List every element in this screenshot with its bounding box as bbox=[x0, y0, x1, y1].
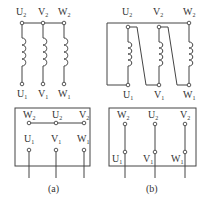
terminal-icon bbox=[183, 150, 187, 154]
terminal-icon bbox=[153, 150, 157, 154]
label-u2-b: U2 bbox=[122, 6, 132, 18]
label-v2-b: V2 bbox=[153, 6, 163, 18]
delta-cross-wire-v2-w1 bbox=[159, 27, 189, 85]
coil-icon bbox=[128, 42, 132, 66]
winding-w-a bbox=[64, 23, 68, 84]
panel-a-schematic: U2 V2 W2 U1 V1 W1 bbox=[16, 6, 70, 100]
box-a-label-w2: W2 bbox=[23, 109, 35, 121]
winding-v-b bbox=[159, 27, 163, 85]
label-u2-a: U2 bbox=[16, 6, 26, 18]
terminal-icon bbox=[183, 122, 187, 126]
terminal-icon bbox=[62, 21, 66, 25]
terminal-icon bbox=[54, 148, 58, 152]
winding-u-b bbox=[128, 27, 132, 85]
delta-return-wire bbox=[107, 23, 189, 85]
terminal-icon bbox=[153, 122, 157, 126]
caption-a: (a) bbox=[48, 183, 59, 195]
terminal-icon bbox=[157, 25, 161, 29]
label-w1-a: W1 bbox=[58, 88, 70, 100]
coil-icon bbox=[64, 38, 68, 66]
box-a-label-v1: V1 bbox=[51, 133, 61, 145]
coil-icon bbox=[189, 42, 193, 66]
terminal-icon bbox=[157, 83, 161, 87]
terminal-icon bbox=[20, 82, 24, 86]
box-b-label-v1: V1 bbox=[143, 153, 153, 165]
panel-a-terminal-box: W2 U2 V2 U1 V1 W1 (a) bbox=[15, 108, 90, 195]
label-w1-b: W1 bbox=[183, 89, 195, 101]
coil-icon bbox=[22, 38, 26, 66]
terminal-icon bbox=[126, 83, 130, 87]
label-v1-b: V1 bbox=[154, 89, 164, 101]
delta-cross-wire-u2-v1 bbox=[128, 27, 159, 85]
coil-icon bbox=[43, 38, 47, 66]
label-v1-a: V1 bbox=[38, 88, 48, 100]
terminal-icon bbox=[82, 148, 86, 152]
box-b-label-w1: W1 bbox=[171, 153, 183, 165]
winding-u-a bbox=[22, 23, 26, 84]
box-b-label-u2: U2 bbox=[148, 109, 158, 121]
label-u1-b: U1 bbox=[123, 89, 133, 101]
box-a-label-u1: U1 bbox=[24, 133, 34, 145]
caption-b: (b) bbox=[146, 183, 158, 195]
winding-v-a bbox=[43, 23, 47, 84]
terminal-icon bbox=[82, 121, 86, 125]
coil-icon bbox=[159, 42, 163, 66]
winding-w-b bbox=[189, 23, 193, 85]
box-a-label-v2: V2 bbox=[79, 109, 89, 121]
panel-b-terminal-box: W2 U2 V2 U1 V1 W1 (b) bbox=[109, 108, 196, 195]
terminal-icon bbox=[41, 82, 45, 86]
label-w2-b: W2 bbox=[183, 6, 195, 18]
terminal-icon bbox=[123, 150, 127, 154]
terminal-icon bbox=[41, 21, 45, 25]
terminal-icon bbox=[62, 82, 66, 86]
box-b-label-w2: W2 bbox=[117, 109, 129, 121]
terminal-icon bbox=[54, 121, 58, 125]
box-b-label-v2: V2 bbox=[180, 109, 190, 121]
box-a-label-w1: W1 bbox=[77, 133, 89, 145]
winding-diagram: U2 V2 W2 U1 V1 W1 bbox=[0, 0, 202, 197]
terminal-icon bbox=[187, 83, 191, 87]
terminal-icon bbox=[27, 148, 31, 152]
label-u1-a: U1 bbox=[17, 88, 27, 100]
label-w2-a: W2 bbox=[58, 6, 70, 18]
terminal-icon bbox=[20, 21, 24, 25]
terminal-icon bbox=[123, 122, 127, 126]
terminal-icon bbox=[126, 25, 130, 29]
label-v2-a: V2 bbox=[38, 6, 48, 18]
box-b-label-u1: U1 bbox=[112, 153, 122, 165]
box-a-label-u2: U2 bbox=[52, 109, 62, 121]
terminal-icon bbox=[27, 121, 31, 125]
panel-b-schematic: U2 V2 W2 U1 bbox=[107, 6, 195, 101]
terminal-icon bbox=[187, 21, 191, 25]
